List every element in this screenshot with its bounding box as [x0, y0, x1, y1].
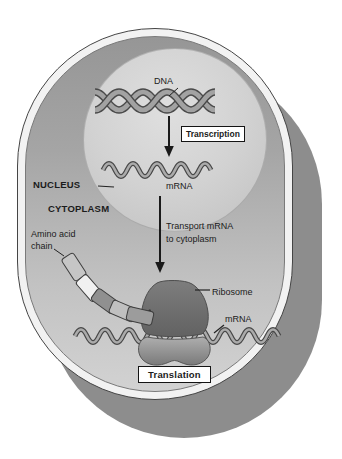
- ribosome-large-subunit: [141, 280, 208, 336]
- amino-acid-chain-label: Amino acid chain: [31, 228, 76, 252]
- ribosome-label: Ribosome: [212, 286, 253, 298]
- dna-label: DNA: [154, 75, 173, 87]
- transport-line2: to cytoplasm: [166, 234, 217, 244]
- amino-acid-chain-icon: [61, 252, 154, 325]
- amino-acid-line2: chain: [31, 241, 53, 251]
- transport-mrna-label: Transport mRNA to cytoplasm: [166, 220, 233, 246]
- nucleus-leader-line: [98, 186, 114, 187]
- transcription-label: Transcription: [186, 129, 240, 139]
- transport-line1: Transport mRNA: [166, 221, 233, 231]
- mrna-cytoplasm-label: mRNA: [225, 313, 252, 325]
- dna-helix-icon: [95, 92, 215, 110]
- ribosome-small-subunit: [139, 337, 211, 365]
- transcription-step-box: Transcription: [181, 126, 245, 142]
- mrna-nucleus-label: mRNA: [166, 180, 193, 192]
- protein-synthesis-diagram: DNA Transcription mRNA NUCLEUS CYTOPLASM…: [0, 0, 342, 459]
- nucleus-label: NUCLEUS: [33, 179, 80, 191]
- translation-label: Translation: [148, 369, 201, 380]
- translation-step-box: Translation: [138, 366, 211, 383]
- transport-arrow: [155, 196, 165, 273]
- amino-acid-line1: Amino acid: [31, 229, 76, 239]
- mrna-strand-nucleus-icon: [103, 164, 211, 177]
- cytoplasm-label: CYTOPLASM: [48, 203, 109, 215]
- transcription-arrow: [164, 116, 174, 157]
